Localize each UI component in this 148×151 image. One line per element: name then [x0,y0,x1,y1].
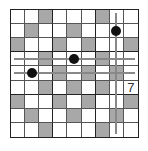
grid-cell-r3c5[interactable] [67,38,81,52]
grid-cell-r7c1[interactable] [11,95,25,109]
grid-cell-r2c8[interactable] [110,24,124,38]
grid-cell-r1c1[interactable] [11,10,25,24]
grid-cell-r9c9[interactable] [124,123,138,137]
grid-cell-r2c1[interactable] [11,24,25,38]
grid-cell-r9c6[interactable] [82,123,96,137]
grid-cell-r2c3[interactable] [39,24,53,38]
grid-cell-r8c9[interactable] [124,109,138,123]
dot-marker-icon [111,26,121,36]
grid-cell-r3c7[interactable] [96,38,110,52]
cell-number: 7 [124,81,138,94]
grid-cell-r1c2[interactable] [25,10,39,24]
grid-cell-r2c5[interactable] [67,24,81,38]
grid-cell-r9c4[interactable] [53,123,67,137]
grid-cell-r6c6[interactable] [82,81,96,95]
grid-cell-r8c8[interactable] [110,109,124,123]
grid-cell-r7c9[interactable] [124,95,138,109]
grid-cell-r7c7[interactable] [96,95,110,109]
grid-cell-r9c1[interactable] [11,123,25,137]
grid-cell-r3c8[interactable] [110,38,124,52]
grid-cell-r7c6[interactable] [82,95,96,109]
grid-cell-r9c2[interactable] [25,123,39,137]
grid-cell-r2c7[interactable] [96,24,110,38]
grid-cell-r2c9[interactable] [124,24,138,38]
grid-cell-r8c5[interactable] [67,109,81,123]
grid-cell-r3c1[interactable] [11,38,25,52]
grid-cell-r6c5[interactable] [67,81,81,95]
grid-cell-r9c5[interactable] [67,123,81,137]
grid-cell-r6c7[interactable] [96,81,110,95]
grid-cell-r1c7[interactable] [96,10,110,24]
grid-cell-r1c6[interactable] [82,10,96,24]
grid-cell-r6c3[interactable] [39,81,53,95]
grid-cell-r8c7[interactable] [96,109,110,123]
grid-cell-r6c4[interactable] [53,81,67,95]
grid-cell-r6c9[interactable]: 7 [124,81,138,95]
grid-cell-r8c6[interactable] [82,109,96,123]
grid-cell-r1c8[interactable] [110,10,124,24]
grid-cell-r6c1[interactable] [11,81,25,95]
grid-cell-r9c3[interactable] [39,123,53,137]
grid-cell-r1c9[interactable] [124,10,138,24]
grid-cell-r2c6[interactable] [82,24,96,38]
grid-cell-r3c2[interactable] [25,38,39,52]
grid-cell-r7c4[interactable] [53,95,67,109]
grid-cell-r7c2[interactable] [25,95,39,109]
grid-cell-r1c4[interactable] [53,10,67,24]
dot-marker-icon [27,68,37,78]
grid-cell-r8c3[interactable] [39,109,53,123]
grid-cell-r2c4[interactable] [53,24,67,38]
grid-cell-r1c5[interactable] [67,10,81,24]
grid-cell-r3c4[interactable] [53,38,67,52]
grid-cell-r6c8[interactable] [110,81,124,95]
grid-cell-r8c2[interactable] [25,109,39,123]
grid-cell-r8c1[interactable] [11,109,25,123]
dot-marker-icon [69,54,79,64]
grid-cell-r3c6[interactable] [82,38,96,52]
puzzle-board: 7 [10,9,139,138]
grid-cell-r7c5[interactable] [67,95,81,109]
grid-cell-r7c8[interactable] [110,95,124,109]
grid-cell-r2c2[interactable] [25,24,39,38]
grid-cell-r3c9[interactable] [124,38,138,52]
grid-cell-r1c3[interactable] [39,10,53,24]
grid-cell-r8c4[interactable] [53,109,67,123]
grid-cell-r9c8[interactable] [110,123,124,137]
grid-cell-r6c2[interactable] [25,81,39,95]
grid-cell-r7c3[interactable] [39,95,53,109]
grid-cell-r3c3[interactable] [39,38,53,52]
grid-cell-r9c7[interactable] [96,123,110,137]
